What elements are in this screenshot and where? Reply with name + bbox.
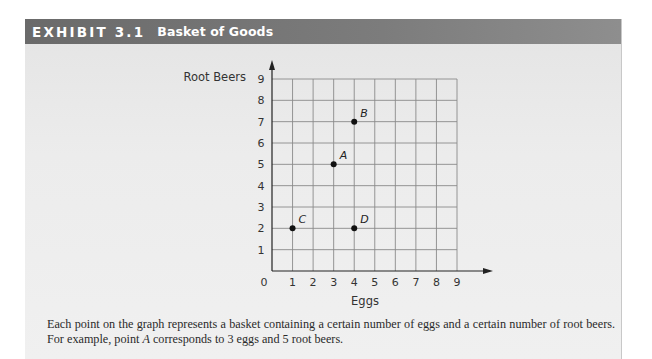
data-point-b	[351, 119, 357, 125]
caption-point-ref: A	[142, 332, 149, 346]
figure-caption: Each point on the graph represents a bas…	[47, 317, 615, 347]
y-tick-label: 4	[258, 180, 265, 193]
point-label-c: C	[299, 213, 307, 226]
x-tick-label: 7	[412, 276, 419, 289]
y-tick-label: 9	[258, 73, 265, 86]
x-tick-label: 5	[371, 276, 378, 289]
data-point-a	[331, 161, 337, 167]
y-tick-label: 3	[258, 201, 265, 214]
x-tick-label: 3	[330, 276, 337, 289]
y-tick-label: 1	[258, 244, 265, 257]
caption-line-2-pre: For example, point	[47, 332, 142, 346]
point-label-b: B	[360, 107, 368, 120]
point-label-a: A	[339, 149, 348, 162]
point-label-d: D	[360, 213, 368, 226]
y-tick-label: 6	[258, 137, 265, 150]
x-axis-label: Eggs	[351, 294, 379, 308]
x-tick-label: 6	[392, 276, 399, 289]
y-tick-label: 8	[258, 94, 265, 107]
y-tick-label: 7	[258, 116, 265, 129]
x-tick-label: 4	[351, 276, 358, 289]
y-axis-label: Root Beers	[184, 70, 246, 84]
x-tick-label: 9	[454, 276, 461, 289]
x-tick-label: 0	[261, 276, 268, 289]
caption-line-1: Each point on the graph represents a bas…	[47, 317, 615, 331]
x-tick-label: 1	[289, 276, 296, 289]
x-tick-label: 2	[310, 276, 317, 289]
caption-line-2-post: corresponds to 3 eggs and 5 root beers.	[150, 332, 343, 346]
x-tick-label: 8	[433, 276, 440, 289]
data-point-c	[290, 225, 296, 231]
x-axis-arrow-icon	[483, 268, 493, 274]
y-tick-label: 5	[258, 158, 265, 171]
y-axis-arrow-icon	[269, 60, 275, 70]
y-tick-label: 2	[258, 222, 265, 235]
data-point-d	[351, 225, 357, 231]
